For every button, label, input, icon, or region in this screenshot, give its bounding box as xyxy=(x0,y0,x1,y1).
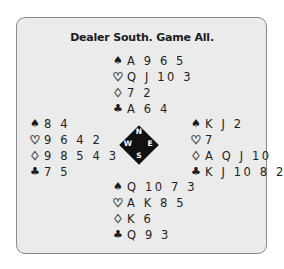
west-clubs: 7 5 xyxy=(44,164,70,180)
heart-icon: ♡ xyxy=(112,195,124,211)
compass-east-label: E xyxy=(145,140,155,148)
compass-west-label: W xyxy=(123,140,133,148)
south-spades: Q 10 7 3 xyxy=(127,179,197,195)
heart-icon: ♡ xyxy=(29,132,41,148)
club-icon: ♣ xyxy=(112,227,124,243)
west-hearts: 9 6 4 2 xyxy=(44,132,102,148)
east-clubs: K J 10 8 2 xyxy=(205,164,284,180)
club-icon: ♣ xyxy=(190,164,202,180)
compass-diamond: N W E S xyxy=(119,125,159,165)
heart-icon: ♡ xyxy=(112,69,124,85)
north-diamonds: 7 2 xyxy=(127,85,153,101)
compass-north-label: N xyxy=(134,128,144,136)
north-hearts: Q J 10 3 xyxy=(127,69,193,85)
east-diamonds: A Q J 10 xyxy=(205,148,272,164)
south-diamonds: K 6 xyxy=(127,211,153,227)
heart-icon: ♡ xyxy=(190,132,202,148)
diamond-icon: ♢ xyxy=(190,148,202,164)
east-hearts: 7 xyxy=(205,132,215,148)
deal-title: Dealer South. Game All. xyxy=(0,31,284,44)
spade-icon: ♠ xyxy=(190,116,202,132)
diamond-icon: ♢ xyxy=(112,211,124,227)
club-icon: ♣ xyxy=(29,164,41,180)
south-clubs: Q 9 3 xyxy=(127,227,171,243)
south-hearts: A K 8 5 xyxy=(127,195,186,211)
spade-icon: ♠ xyxy=(29,116,41,132)
spade-icon: ♠ xyxy=(112,179,124,195)
spade-icon: ♠ xyxy=(112,53,124,69)
west-diamonds: 9 8 5 4 3 xyxy=(44,148,119,164)
north-spades: A 9 6 5 xyxy=(127,53,186,69)
diamond-icon: ♢ xyxy=(112,85,124,101)
east-spades: K J 2 xyxy=(205,116,244,132)
north-clubs: A 6 4 xyxy=(127,101,170,117)
compass-south-label: S xyxy=(134,152,144,160)
west-spades: 8 4 xyxy=(44,116,70,132)
diamond-icon: ♢ xyxy=(29,148,41,164)
club-icon: ♣ xyxy=(112,101,124,117)
